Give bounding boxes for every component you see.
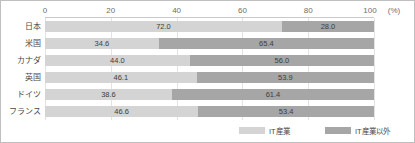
x-axis-unit-label: (%) — [388, 5, 400, 16]
category-label-1: 米国 — [1, 35, 41, 52]
bar-value-label: 46.6 — [45, 106, 198, 117]
chart-container: 0 20 40 60 80 100 (%) 日本72.028.0米国34.665… — [0, 0, 415, 143]
bar-track: 46.153.9 — [45, 72, 374, 83]
bar-segment-it[interactable]: 38.6 — [45, 89, 172, 100]
bar-value-label: 65.4 — [159, 38, 374, 49]
bar-segment-non-it[interactable]: 65.4 — [159, 38, 374, 49]
bar-value-label: 72.0 — [45, 21, 282, 32]
bar-segment-it[interactable]: 34.6 — [45, 38, 159, 49]
bar-track: 34.665.4 — [45, 38, 374, 49]
legend-label-it: IT産業 — [269, 125, 290, 136]
legend-item-non-it[interactable]: IT産業以外 — [325, 124, 390, 136]
legend-swatch-it-icon — [239, 127, 265, 134]
chart-legend: IT産業 IT産業以外 — [1, 124, 415, 136]
bar-segment-non-it[interactable]: 28.0 — [282, 21, 374, 32]
bar-track: 46.653.4 — [45, 106, 374, 117]
x-axis-tick-20: 20 — [106, 5, 115, 16]
bar-segment-non-it[interactable]: 61.4 — [172, 89, 374, 100]
bar-value-label: 53.4 — [198, 106, 374, 117]
category-label-3: 英国 — [1, 69, 41, 86]
bar-track: 44.056.0 — [45, 55, 374, 66]
category-label-0: 日本 — [1, 18, 41, 35]
x-axis-tick-80: 80 — [304, 5, 313, 16]
category-label-5: フランス — [1, 103, 41, 120]
legend-label-non-it: IT産業以外 — [355, 125, 390, 136]
bar-row: 日本72.028.0 — [1, 18, 415, 35]
bar-value-label: 38.6 — [45, 89, 172, 100]
bar-segment-it[interactable]: 46.1 — [45, 72, 197, 83]
x-axis-tick-0: 0 — [43, 5, 47, 16]
bar-track: 72.028.0 — [45, 21, 374, 32]
bar-segment-non-it[interactable]: 56.0 — [190, 55, 374, 66]
bar-value-label: 44.0 — [45, 55, 190, 66]
bar-value-label: 56.0 — [190, 55, 374, 66]
bar-value-label: 53.9 — [197, 72, 374, 83]
bar-value-label: 46.1 — [45, 72, 197, 83]
bar-track: 38.661.4 — [45, 89, 374, 100]
category-label-4: ドイツ — [1, 86, 41, 103]
bar-value-label: 61.4 — [172, 89, 374, 100]
x-axis-tick-40: 40 — [172, 5, 181, 16]
bar-value-label: 28.0 — [282, 21, 374, 32]
bar-row: 英国46.153.9 — [1, 69, 415, 86]
category-label-2: カナダ — [1, 52, 41, 69]
bar-segment-it[interactable]: 46.6 — [45, 106, 198, 117]
legend-swatch-non-it-icon — [325, 127, 351, 134]
bar-row: ドイツ38.661.4 — [1, 86, 415, 103]
plot-area: 日本72.028.0米国34.665.4カナダ44.056.0英国46.153.… — [1, 18, 415, 120]
bar-value-label: 34.6 — [45, 38, 159, 49]
x-axis-tick-60: 60 — [238, 5, 247, 16]
legend-item-it[interactable]: IT産業 — [239, 124, 290, 136]
bar-row: 米国34.665.4 — [1, 35, 415, 52]
bar-segment-non-it[interactable]: 53.9 — [197, 72, 374, 83]
bar-segment-non-it[interactable]: 53.4 — [198, 106, 374, 117]
bar-row: カナダ44.056.0 — [1, 52, 415, 69]
x-axis-tick-100: 100 — [363, 5, 376, 16]
bar-segment-it[interactable]: 72.0 — [45, 21, 282, 32]
bar-segment-it[interactable]: 44.0 — [45, 55, 190, 66]
bar-row: フランス46.653.4 — [1, 103, 415, 120]
